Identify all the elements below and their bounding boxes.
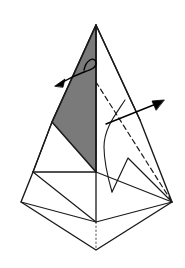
origami-diagram-figure: Origami folding step diagram Line-art di… — [0, 0, 185, 268]
diagram-canvas: Origami folding step diagram Line-art di… — [0, 0, 185, 268]
